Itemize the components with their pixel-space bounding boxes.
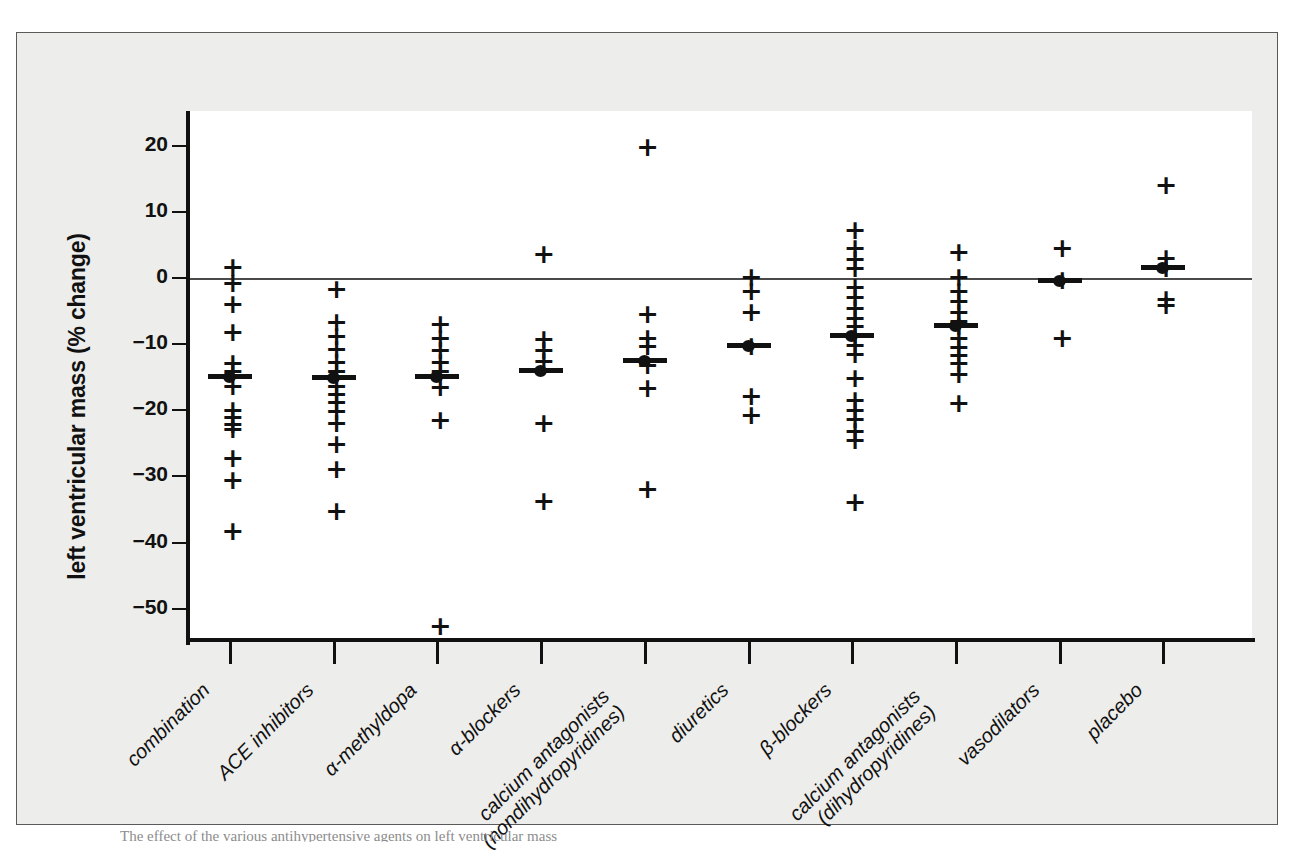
x-axis-category-label: placebo (1082, 679, 1147, 744)
data-point-marker: + (740, 387, 757, 404)
mean-dot (327, 372, 340, 384)
data-point-marker: + (222, 408, 239, 425)
x-axis-tick (851, 642, 854, 664)
data-point-marker: + (636, 329, 653, 346)
data-point-marker: + (1051, 329, 1068, 346)
data-point-marker: + (844, 410, 861, 427)
y-axis-tick-label: 0 (108, 264, 168, 288)
mean-dot (742, 340, 755, 352)
data-point-marker: + (325, 313, 342, 330)
data-point-marker: + (947, 292, 964, 309)
data-point-marker: + (844, 401, 861, 418)
data-point-marker: + (844, 493, 861, 510)
x-axis-tick (1059, 642, 1062, 664)
mean-dot (534, 365, 547, 377)
data-point-marker: + (947, 282, 964, 299)
data-point-marker: + (533, 492, 550, 509)
data-point-marker: + (222, 258, 239, 275)
data-point-marker: + (1051, 239, 1068, 256)
mean-dot (1156, 262, 1169, 274)
x-axis-tick (955, 642, 958, 664)
data-point-marker: + (947, 303, 964, 320)
y-axis-tick (172, 608, 186, 610)
data-point-marker: + (844, 221, 861, 238)
x-axis-category-label: α-methyldopa (320, 679, 421, 780)
data-point-marker: + (844, 259, 861, 276)
y-axis-tick-label: −40 (108, 529, 168, 553)
data-point-marker: + (325, 402, 342, 419)
data-point-marker: + (636, 480, 653, 497)
data-point-marker: + (429, 411, 446, 428)
mean-dot (223, 371, 236, 383)
data-point-marker: + (844, 345, 861, 362)
data-point-marker: + (325, 435, 342, 452)
data-point-marker: + (844, 299, 861, 316)
mean-dot (1053, 275, 1066, 287)
figure-panel: left ventricular mass (% change) 20100−1… (16, 32, 1278, 825)
x-axis-tick (1162, 642, 1165, 664)
data-point-marker: + (325, 353, 342, 370)
data-point-marker: + (947, 346, 964, 363)
data-point-marker: + (222, 274, 239, 291)
y-axis-tick (172, 277, 186, 279)
mean-dot (845, 330, 858, 342)
x-axis-category-label: β-blockers (755, 679, 836, 760)
data-point-marker: + (533, 341, 550, 358)
data-point-marker: + (429, 617, 446, 634)
data-point-marker: + (222, 420, 239, 437)
data-point-marker: + (325, 385, 342, 402)
data-point-marker: + (222, 401, 239, 418)
y-axis-tick-label: 20 (108, 132, 168, 156)
y-axis-tick (172, 475, 186, 477)
data-point-marker: + (429, 315, 446, 332)
data-point-marker: + (947, 268, 964, 285)
y-axis-title-wrapper: left ventricular mass (% change) (45, 93, 85, 613)
zero-reference-line (186, 278, 1252, 280)
data-point-marker: + (844, 391, 861, 408)
data-point-marker: + (740, 406, 757, 423)
data-point-marker: + (429, 341, 446, 358)
data-point-marker: + (844, 288, 861, 305)
x-axis-category-label: ACE inhibitors (213, 679, 318, 784)
data-point-marker: + (222, 295, 239, 312)
data-point-marker: + (325, 502, 342, 519)
y-axis-tick-label: 10 (108, 198, 168, 222)
x-axis-tick (540, 642, 543, 664)
x-axis-category-label: diuretics (665, 679, 733, 747)
data-point-marker: + (533, 414, 550, 431)
data-point-marker: + (636, 138, 653, 155)
y-axis-tick (172, 542, 186, 544)
data-point-marker: + (533, 330, 550, 347)
data-point-marker: + (325, 327, 342, 344)
data-point-marker: + (844, 239, 861, 256)
plot-area: ++++++++++++++++++++++++++++++++++++++++… (186, 111, 1252, 641)
data-point-marker: + (844, 309, 861, 326)
mean-dot (949, 320, 962, 332)
x-axis-category-label: α-blockers (444, 679, 525, 760)
data-point-marker: + (429, 353, 446, 370)
data-point-marker: + (222, 522, 239, 539)
data-point-marker: + (636, 337, 653, 354)
data-point-marker: + (740, 303, 757, 320)
data-point-marker: + (325, 280, 342, 297)
data-point-marker: + (947, 338, 964, 355)
y-axis-tick (172, 409, 186, 411)
data-point-marker: + (740, 268, 757, 285)
data-point-marker: + (222, 415, 239, 432)
data-point-marker: + (636, 379, 653, 396)
data-point-marker: + (429, 329, 446, 346)
data-point-marker: + (947, 354, 964, 371)
y-axis-tick-label: −50 (108, 595, 168, 619)
mean-dot (430, 371, 443, 383)
y-axis-tick-label: −20 (108, 396, 168, 420)
x-axis-tick (748, 642, 751, 664)
x-axis-tick (644, 642, 647, 664)
data-point-marker: + (636, 305, 653, 322)
figure-caption: The effect of the various antihypertensi… (120, 828, 557, 842)
x-axis-line (186, 638, 1255, 642)
y-axis-tick (172, 343, 186, 345)
mean-dot (638, 355, 651, 367)
data-point-marker: + (222, 449, 239, 466)
x-axis-category-label: vasodilators (953, 679, 1044, 770)
x-axis-tick (436, 642, 439, 664)
